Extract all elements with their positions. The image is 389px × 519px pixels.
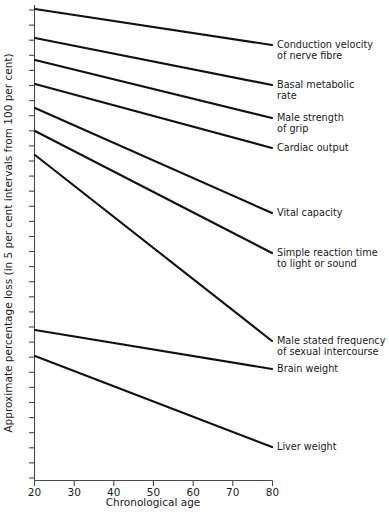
x-axis-title: Chronological age [106,496,201,508]
series-label-line: Cardiac output [277,142,349,153]
series-label: Cardiac output [277,142,349,153]
series-label: Vital capacity [277,207,343,218]
x-tick-label: 20 [28,486,41,498]
y-axis-title: Approximate percentage loss (in 5 per ce… [2,53,14,432]
series-label-line: of sexual intercourse [277,346,379,357]
series-label: Male stated frequencyof sexual intercour… [277,335,386,357]
x-tick-label: 70 [226,486,239,498]
series-label-line: Liver weight [277,441,337,452]
series-label-line: Male strength [277,112,344,123]
series-label-line: to light or sound [277,258,357,269]
series-label-line: Basal metabolic [277,79,354,90]
series-label-line: Male stated frequency [277,335,386,346]
series-label: Liver weight [277,441,337,452]
series-label-line: Conduction velocity [277,39,373,50]
series-label: Brain weight [277,363,338,374]
series-label-line: Brain weight [277,363,338,374]
series-label-line: Simple reaction time [277,247,378,258]
x-tick-label: 80 [266,486,279,498]
series-label-line: rate [277,90,297,101]
series-label-line: of nerve fibre [277,50,342,61]
series-label-line: of grip [277,123,308,134]
series-label-line: Vital capacity [277,207,343,218]
chart-figure: 20304050607080 Conduction velocityof ner… [0,0,389,519]
x-tick-label: 30 [68,486,81,498]
